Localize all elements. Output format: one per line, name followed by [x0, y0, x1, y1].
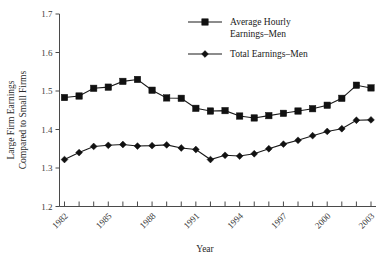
- data-point-marker: [309, 106, 315, 112]
- y-tick-label: 1.7: [41, 9, 53, 19]
- data-point-marker: [193, 105, 199, 111]
- data-point-marker: [368, 116, 375, 123]
- y-tick-label: 1.6: [41, 48, 53, 58]
- data-point-marker: [61, 94, 67, 100]
- data-point-marker: [295, 108, 301, 114]
- data-point-marker: [120, 78, 126, 84]
- series-line: [65, 120, 372, 160]
- data-point-marker: [324, 102, 330, 108]
- data-point-marker: [163, 142, 170, 149]
- data-point-marker: [90, 143, 97, 150]
- series-1: [61, 76, 374, 121]
- x-tick-label: 1982: [50, 211, 70, 231]
- x-tick-label: 1988: [138, 210, 158, 230]
- data-point-marker: [192, 146, 199, 153]
- x-axis-ticks: 19821985198819911994199720002003: [50, 202, 377, 231]
- chart-legend: Average HourlyEarnings–MenTotal Earnings…: [188, 17, 308, 59]
- data-point-marker: [178, 145, 185, 152]
- x-tick-label: 1994: [225, 210, 245, 230]
- x-tick-label: 1991: [181, 211, 201, 231]
- data-point-marker: [339, 95, 345, 101]
- data-point-marker: [353, 117, 360, 124]
- series-group: [61, 76, 374, 163]
- legend-entry-1: Average HourlyEarnings–Men: [188, 17, 291, 39]
- data-point-marker: [76, 149, 83, 156]
- data-point-marker: [163, 95, 169, 101]
- y-tick-label: 1.5: [41, 86, 53, 96]
- data-point-marker: [178, 95, 184, 101]
- legend-label-line2: Earnings–Men: [230, 29, 286, 39]
- data-point-marker: [236, 153, 243, 160]
- y-axis-title-line2: Compared to Small Firms: [18, 70, 28, 169]
- legend-square-marker-icon: [202, 19, 208, 25]
- data-point-marker: [251, 115, 257, 121]
- data-point-marker: [222, 107, 228, 113]
- data-point-marker: [236, 113, 242, 119]
- chart-container: Large Firm Earnings Compared to Small Fi…: [0, 0, 392, 261]
- data-point-marker: [207, 108, 213, 114]
- data-point-marker: [105, 142, 112, 149]
- data-point-marker: [338, 125, 345, 132]
- data-point-marker: [265, 145, 272, 152]
- y-tick-label: 1.3: [41, 163, 53, 173]
- legend-label-line1: Average Hourly: [230, 17, 291, 27]
- data-point-marker: [251, 150, 258, 157]
- y-axis-title: Large Firm Earnings Compared to Small Fi…: [6, 70, 28, 169]
- data-point-marker: [105, 84, 111, 90]
- data-point-marker: [353, 82, 359, 88]
- x-tick-label: 1997: [269, 210, 289, 230]
- data-point-marker: [280, 141, 287, 148]
- data-point-marker: [61, 156, 68, 163]
- x-axis-title: Year: [196, 244, 214, 254]
- legend-label-line1: Total Earnings–Men: [230, 49, 308, 59]
- x-tick-label: 2003: [357, 210, 377, 230]
- data-point-marker: [207, 156, 214, 163]
- x-tick-label: 1985: [94, 210, 114, 230]
- data-point-marker: [295, 137, 302, 144]
- data-point-marker: [149, 142, 156, 149]
- series-2: [61, 116, 374, 162]
- data-point-marker: [280, 110, 286, 116]
- data-point-marker: [324, 128, 331, 135]
- y-axis-ticks: 1.21.31.41.51.61.7: [41, 9, 59, 212]
- legend-diamond-marker-icon: [202, 51, 209, 58]
- data-point-marker: [76, 93, 82, 99]
- data-point-marker: [309, 132, 316, 139]
- data-point-marker: [90, 85, 96, 91]
- x-tick-label: 2000: [313, 210, 333, 230]
- data-point-marker: [134, 143, 141, 150]
- data-point-marker: [368, 85, 374, 91]
- y-axis-title-line1: Large Firm Earnings: [6, 80, 16, 159]
- data-point-marker: [222, 152, 229, 159]
- data-point-marker: [119, 141, 126, 148]
- y-tick-label: 1.2: [41, 202, 52, 212]
- data-point-marker: [134, 76, 140, 82]
- line-chart: Large Firm Earnings Compared to Small Fi…: [0, 0, 392, 261]
- data-point-marker: [149, 87, 155, 93]
- data-point-marker: [266, 112, 272, 118]
- y-tick-label: 1.4: [41, 125, 53, 135]
- legend-entry-2: Total Earnings–Men: [188, 49, 308, 59]
